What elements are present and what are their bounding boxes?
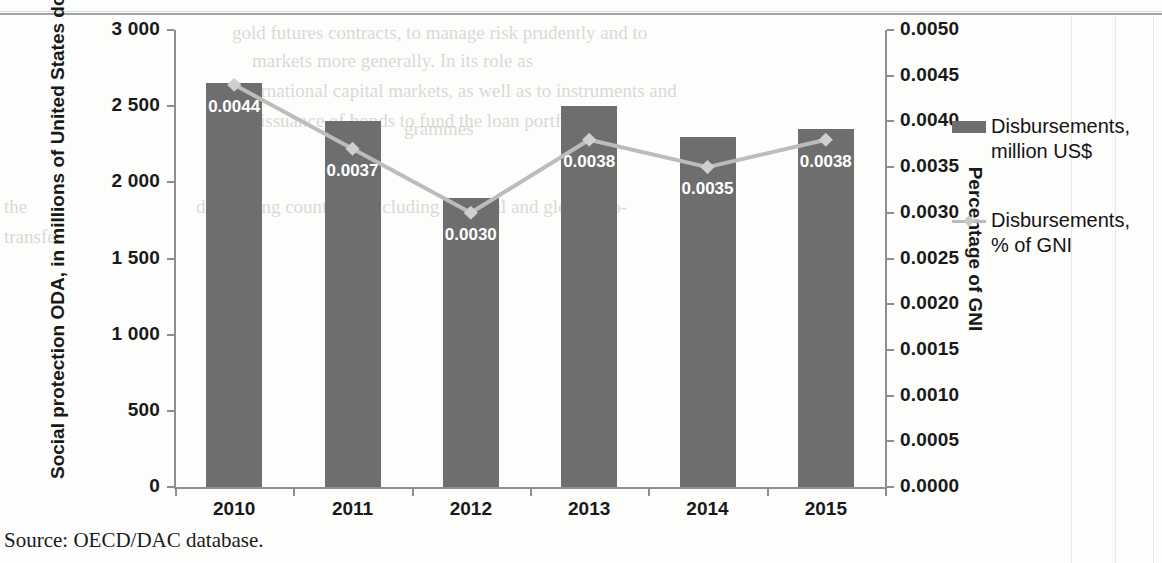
left-axis-title: Social protection ODA, in millions of Un… — [47, 19, 69, 479]
x-axis-tick — [175, 489, 177, 496]
point-value-label: 0.0035 — [668, 179, 748, 199]
x-axis-tick-label: 2013 — [529, 498, 649, 520]
right-axis-tick — [887, 395, 894, 397]
left-axis-tick-label: 0 — [149, 475, 160, 497]
left-axis-tick — [167, 29, 174, 31]
x-axis-tick — [767, 489, 769, 496]
right-axis-tick — [887, 349, 894, 351]
point-value-label: 0.0037 — [313, 161, 393, 181]
left-axis-tick — [167, 410, 174, 412]
right-axis-tick-label: 0.0005 — [900, 429, 959, 451]
right-axis-tick — [887, 258, 894, 260]
legend-label: Disbursements, % of GNI — [991, 208, 1130, 258]
plot-area: 0.00440.00370.00300.00380.00350.0038 — [175, 30, 885, 487]
left-axis-tick-label: 2 000 — [111, 170, 160, 192]
left-axis-tick — [167, 258, 174, 260]
right-axis-tick-label: 0.0000 — [900, 475, 959, 497]
line-series — [175, 30, 885, 487]
x-axis-tick — [530, 489, 532, 496]
x-axis-tick-label: 2011 — [293, 498, 413, 520]
x-axis-tick — [648, 489, 650, 496]
chart-legend: Disbursements, million US$ Disbursements… — [952, 114, 1157, 302]
x-axis-tick — [293, 489, 295, 496]
left-axis-tick-label: 3 000 — [111, 18, 160, 40]
line-marker[interactable] — [819, 133, 833, 147]
bar-swatch-icon — [952, 121, 986, 133]
x-axis-tick — [885, 489, 887, 496]
right-axis-tick — [887, 486, 894, 488]
legend-item-disbursements-pct-gni[interactable]: Disbursements, % of GNI — [952, 208, 1157, 258]
point-value-label: 0.0044 — [194, 97, 274, 117]
right-axis-tick-label: 0.0020 — [900, 292, 959, 314]
right-axis-tick-label: 0.0050 — [900, 18, 959, 40]
right-axis-tick — [887, 75, 894, 77]
page-rule-shadow — [0, 11, 1162, 12]
x-axis-tick-label: 2012 — [411, 498, 531, 520]
source-note: Source: OECD/DAC database. — [4, 528, 264, 553]
point-value-label: 0.0030 — [431, 225, 511, 245]
point-value-label: 0.0038 — [786, 152, 866, 172]
x-axis-tick-label: 2015 — [766, 498, 886, 520]
left-axis-tick-label: 1 500 — [111, 247, 160, 269]
x-axis-tick — [412, 489, 414, 496]
right-axis-tick-label: 0.0040 — [900, 109, 959, 131]
right-axis-tick-label: 0.0015 — [900, 338, 959, 360]
right-axis-tick-label: 0.0035 — [900, 155, 959, 177]
right-axis-tick — [887, 303, 894, 305]
right-axis-tick-label: 0.0025 — [900, 247, 959, 269]
legend-label: Disbursements, million US$ — [991, 114, 1130, 164]
right-axis-tick — [887, 166, 894, 168]
left-axis-tick — [167, 181, 174, 183]
point-value-label: 0.0038 — [549, 152, 629, 172]
left-axis-tick — [167, 486, 174, 488]
right-axis-tick — [887, 212, 894, 214]
left-axis-tick — [167, 334, 174, 336]
left-axis-tick-label: 500 — [128, 399, 160, 421]
page-header-rule — [0, 13, 1162, 15]
right-axis-tick — [887, 440, 894, 442]
chart-figure: Social protection ODA, in millions of Un… — [0, 16, 1162, 521]
left-axis-tick-label: 1 000 — [111, 323, 160, 345]
right-axis-tick — [887, 120, 894, 122]
line-diamond-swatch-icon — [952, 214, 986, 228]
legend-item-disbursements-million-usd[interactable]: Disbursements, million US$ — [952, 114, 1157, 164]
line-marker[interactable] — [700, 160, 714, 174]
left-axis-tick-label: 2 500 — [111, 94, 160, 116]
right-axis-tick-label: 0.0010 — [900, 384, 959, 406]
right-axis-tick-label: 0.0030 — [900, 201, 959, 223]
left-axis-tick — [167, 105, 174, 107]
right-axis-tick-label: 0.0045 — [900, 64, 959, 86]
right-axis-tick — [887, 29, 894, 31]
x-axis-tick-label: 2014 — [648, 498, 768, 520]
x-axis-tick-label: 2010 — [174, 498, 294, 520]
